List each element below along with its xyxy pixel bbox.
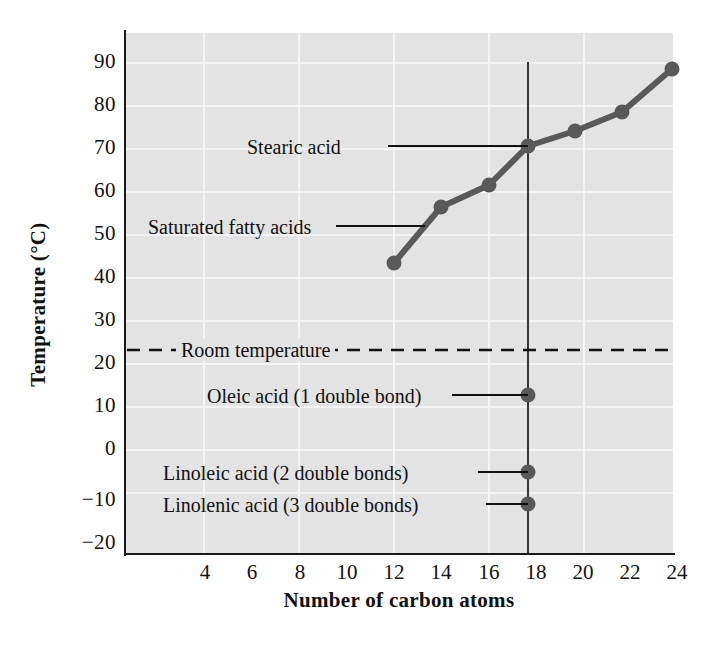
y-tick-label: −20 bbox=[70, 532, 116, 553]
y-tick-label: 60 bbox=[70, 180, 116, 201]
x-tick-label: 18 bbox=[514, 561, 558, 583]
y-tick-label: 20 bbox=[70, 352, 116, 373]
gridline-horizontal bbox=[125, 363, 673, 365]
x-tick-label: 22 bbox=[608, 561, 652, 583]
y-tick-label: 0 bbox=[70, 438, 116, 459]
gridline-horizontal bbox=[125, 105, 673, 107]
x-tick-label: 12 bbox=[372, 561, 416, 583]
gridline-horizontal bbox=[125, 277, 673, 279]
y-tick-label: 10 bbox=[70, 395, 116, 416]
x-tick-label: 14 bbox=[419, 561, 463, 583]
x-tick-label: 10 bbox=[325, 561, 369, 583]
y-tick-label: 40 bbox=[70, 266, 116, 287]
x-tick-label: 8 bbox=[278, 561, 322, 583]
annotation-linolenic-acid: Linolenic acid (3 double bonds) bbox=[163, 494, 419, 516]
gridline-horizontal bbox=[125, 449, 673, 451]
gridline-vertical bbox=[583, 33, 585, 553]
y-tick-label: 30 bbox=[70, 309, 116, 330]
y-tick-label: 90 bbox=[70, 51, 116, 72]
y-tick-label: 50 bbox=[70, 223, 116, 244]
gridline-horizontal bbox=[125, 191, 673, 193]
y-tick-label: 80 bbox=[70, 94, 116, 115]
gridline-horizontal bbox=[125, 62, 673, 64]
x-tick-label: 16 bbox=[467, 561, 511, 583]
x-tick-label: 4 bbox=[183, 561, 227, 583]
annotation-room-temperature: Room temperature bbox=[176, 339, 335, 361]
y-axis-title: Temperature (°C) bbox=[26, 175, 51, 435]
x-tick-label: 20 bbox=[561, 561, 605, 583]
fatty-acid-melting-point-chart: 90 80 70 60 50 40 30 20 10 0 −10 −20 4 6… bbox=[0, 0, 720, 645]
annotation-saturated-fatty-acids: Saturated fatty acids bbox=[148, 216, 311, 238]
x-tick-label: 6 bbox=[230, 561, 274, 583]
y-tick-label: −10 bbox=[70, 489, 116, 510]
gridline-horizontal bbox=[125, 148, 673, 150]
x-axis-line bbox=[124, 553, 675, 555]
gridline-vertical bbox=[488, 33, 490, 553]
annotation-stearic-acid: Stearic acid bbox=[247, 136, 341, 158]
y-axis-line bbox=[124, 30, 126, 556]
annotation-linoleic-acid: Linoleic acid (2 double bonds) bbox=[163, 462, 409, 484]
gridline-horizontal bbox=[125, 320, 673, 322]
x-axis-title: Number of carbon atoms bbox=[125, 588, 673, 613]
x-tick-label: 24 bbox=[655, 561, 699, 583]
annotation-oleic-acid: Oleic acid (1 double bond) bbox=[207, 385, 421, 407]
y-tick-label: 70 bbox=[70, 137, 116, 158]
